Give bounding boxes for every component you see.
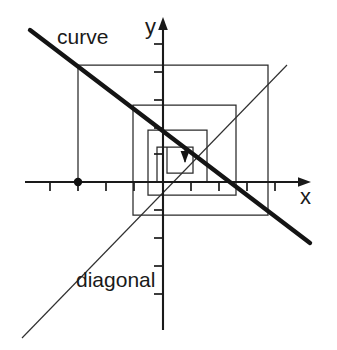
x-axis-label: x xyxy=(300,186,311,208)
diagonal-group xyxy=(22,65,287,338)
diagonal-label: diagonal xyxy=(76,269,155,290)
diagonal-line xyxy=(22,65,287,338)
y-axis-ticks xyxy=(154,44,163,294)
figure-canvas xyxy=(0,0,337,350)
convergence-arrow-icon xyxy=(181,151,190,163)
y-axis-label: y xyxy=(145,16,156,38)
cobweb-figure: curve diagonal y x xyxy=(0,0,337,350)
y-axis-arrow-icon xyxy=(158,17,168,30)
curve-label: curve xyxy=(57,26,108,47)
initial-point-marker xyxy=(74,178,82,186)
